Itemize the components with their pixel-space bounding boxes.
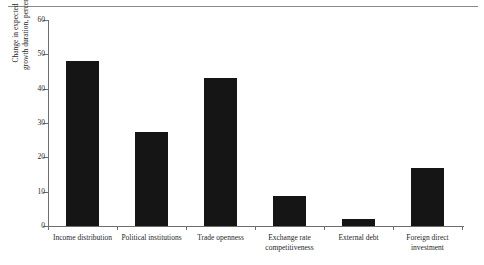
bar-external-debt	[342, 219, 375, 226]
y-tick-label-30: 30	[38, 117, 46, 128]
bar-chart-figure: Change in expected growth duration, perc…	[0, 0, 484, 265]
x-tick-boundary-6	[462, 226, 463, 230]
y-tick-label-10: 10	[38, 186, 46, 197]
x-tick-boundary-5	[393, 226, 394, 230]
y-tick-label-40: 40	[38, 83, 46, 94]
x-axis-labels: Income distribution Political institutio…	[48, 233, 464, 263]
x-tick-boundary-3	[255, 226, 256, 230]
y-axis-title: Change in expected growth duration, perc…	[11, 0, 30, 88]
x-axis-line	[48, 226, 464, 227]
bars-layer	[48, 20, 462, 226]
bar-foreign-direct-investment	[411, 168, 444, 226]
y-tick-label-50: 50	[38, 48, 46, 59]
bar-political-institutions	[135, 132, 168, 226]
x-tick-boundary-2	[186, 226, 187, 230]
y-tick-label-60: 60	[38, 14, 46, 25]
x-label-foreign-direct-investment: Foreign direct investment	[382, 233, 474, 252]
top-divider-rule	[8, 6, 478, 7]
y-tick-label-20: 20	[38, 151, 46, 162]
x-tick-boundary-1	[117, 226, 118, 230]
x-tick-boundary-0	[48, 226, 49, 230]
y-axis-title-line-2: growth duration, percent	[21, 0, 31, 88]
bar-exchange-rate-competitiveness	[273, 196, 306, 226]
plot-area: 0 10 20 30 40 50 60	[48, 20, 462, 226]
bar-trade-openness	[204, 78, 237, 226]
x-tick-boundary-4	[324, 226, 325, 230]
bar-income-distribution	[66, 61, 99, 226]
y-axis-title-line-1: Change in expected	[11, 0, 21, 88]
y-tick-label-0: 0	[41, 220, 45, 231]
